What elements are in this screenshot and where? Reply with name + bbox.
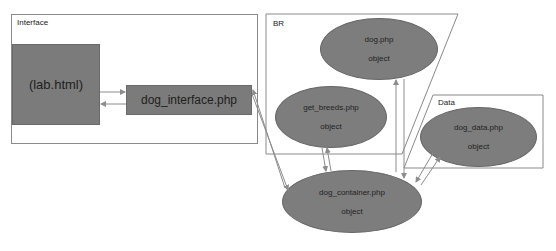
dog-php-type: object [368,54,389,63]
dog-data-node: dog_data.php object [420,107,537,167]
dog-container-type: object [341,207,362,216]
br-frame-label: BR [273,19,284,28]
data-frame-label: Data [438,98,455,107]
get-breeds-type: object [320,122,341,131]
dog-data-name: dog_data.php [454,123,503,132]
dog-php-node: dog.php object [320,18,438,80]
dog-container-node: dog_container.php object [282,170,422,233]
dog-container-name: dog_container.php [319,188,385,197]
interface-frame-label: Interface [17,18,48,27]
get-breeds-node: get_breeds.php object [275,86,387,148]
dog-php-name: dog.php [365,35,394,44]
dog-data-type: object [468,142,489,151]
dog-interface-node: dog_interface.php [126,85,252,115]
lab-html-label: (lab.html) [29,77,83,92]
dog-interface-label: dog_interface.php [141,93,237,107]
lab-html-node: (lab.html) [12,44,100,125]
get-breeds-name: get_breeds.php [303,103,359,112]
